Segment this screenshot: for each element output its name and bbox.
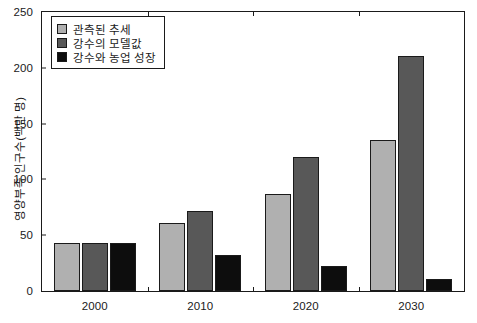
y-tick-label: 200: [0, 62, 33, 74]
y-axis-title: 영양부족 인구수(백만 명): [11, 84, 27, 234]
legend-label: 강수와 농업 성장: [73, 49, 156, 65]
y-tick-label: 0: [0, 285, 33, 297]
bar: [159, 223, 185, 291]
legend-item[interactable]: 강수와 농업 성장: [57, 50, 156, 63]
legend-swatch-icon: [57, 38, 67, 48]
x-tick-label: 2000: [82, 300, 108, 312]
bar-chart: 050100150200250 영양부족 인구수(백만 명) 200020102…: [0, 0, 477, 323]
y-tick-label: 250: [0, 6, 33, 18]
legend-item[interactable]: 관측된 추세: [57, 22, 156, 35]
bar: [215, 255, 241, 291]
legend-swatch-icon: [57, 24, 67, 34]
legend-item[interactable]: 강수의 모델값: [57, 36, 156, 49]
bar: [54, 243, 80, 291]
bar: [82, 243, 108, 291]
x-tick-label: 2010: [187, 300, 213, 312]
bar: [426, 279, 452, 291]
bar: [187, 211, 213, 291]
legend: 관측된 추세강수의 모델값강수와 농업 성장: [51, 16, 165, 69]
bar: [370, 140, 396, 291]
x-tick-label: 2020: [293, 300, 319, 312]
x-tick-label: 2030: [398, 300, 424, 312]
bar: [398, 56, 424, 291]
bar: [321, 266, 347, 291]
bar: [110, 243, 136, 291]
bar: [293, 157, 319, 291]
legend-swatch-icon: [57, 52, 67, 62]
bar: [265, 194, 291, 291]
